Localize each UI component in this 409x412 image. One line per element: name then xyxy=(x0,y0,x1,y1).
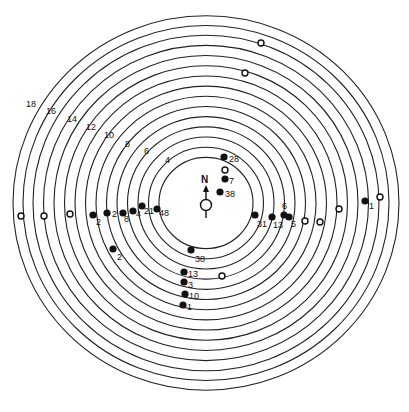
filled-point-marker xyxy=(251,211,258,218)
filled-point-marker xyxy=(220,153,227,160)
point-count-label: 7 xyxy=(229,176,234,186)
open-point-marker xyxy=(18,213,24,219)
point-count-label: 2 xyxy=(96,217,101,227)
point-count-label: 38 xyxy=(195,254,205,264)
ring-label: 18 xyxy=(26,99,36,109)
north-label: N xyxy=(201,174,208,185)
point-count-label: 8 xyxy=(124,214,129,224)
ring-label: 16 xyxy=(46,106,56,116)
point-count-label: 5 xyxy=(291,219,296,229)
point-count-label: 1 xyxy=(369,201,374,211)
point-count-label: 48 xyxy=(159,208,169,218)
point-count-label: 13 xyxy=(273,220,283,230)
filled-point-marker xyxy=(187,246,194,253)
concentric-ring-diagram: 4681012141618 N 228421482287383113651381… xyxy=(0,0,409,412)
ring-distance-labels: 4681012141618 xyxy=(26,99,170,165)
point-count-label: 3 xyxy=(188,280,193,290)
open-point-marker xyxy=(336,206,342,212)
ring-label: 4 xyxy=(165,155,170,165)
north-indicator: N xyxy=(201,174,212,218)
point-count-label: 13 xyxy=(188,269,198,279)
ring-label: 8 xyxy=(125,139,130,149)
filled-point-marker xyxy=(216,188,223,195)
open-point-marker xyxy=(258,40,264,46)
filled-point-marker xyxy=(361,197,368,204)
filled-point-marker xyxy=(180,268,187,275)
open-point-marker xyxy=(377,194,383,200)
open-point-marker xyxy=(302,218,308,224)
ring-label: 10 xyxy=(104,130,114,140)
open-point-marker xyxy=(219,273,225,279)
point-count-label: 38 xyxy=(225,189,235,199)
open-point-marker xyxy=(242,70,248,76)
point-count-label: 4 xyxy=(136,209,141,219)
filled-point-marker xyxy=(181,290,188,297)
point-count-label: 6 xyxy=(282,201,287,211)
center-marker-icon xyxy=(201,200,212,211)
filled-point-marker xyxy=(180,278,187,285)
north-arrowhead-icon xyxy=(203,185,209,192)
ring-label: 6 xyxy=(144,146,149,156)
filled-point-marker xyxy=(179,301,186,308)
open-point-marker xyxy=(41,213,47,219)
point-count-label: 31 xyxy=(257,219,267,229)
open-point-marker xyxy=(317,219,323,225)
point-count-label: 2 xyxy=(117,252,122,262)
point-count-label: 2 xyxy=(112,209,117,219)
open-point-marker xyxy=(67,211,73,217)
point-count-label: 1 xyxy=(187,302,192,312)
point-count-label: 28 xyxy=(229,154,239,164)
filled-point-marker xyxy=(109,245,116,252)
filled-point-marker xyxy=(103,209,110,216)
point-count-label: 21 xyxy=(144,206,154,216)
open-point-marker xyxy=(222,167,228,173)
filled-point-marker xyxy=(221,175,228,182)
ring-label: 12 xyxy=(86,122,96,132)
ring-label: 14 xyxy=(67,114,77,124)
point-count-label: 10 xyxy=(189,291,199,301)
